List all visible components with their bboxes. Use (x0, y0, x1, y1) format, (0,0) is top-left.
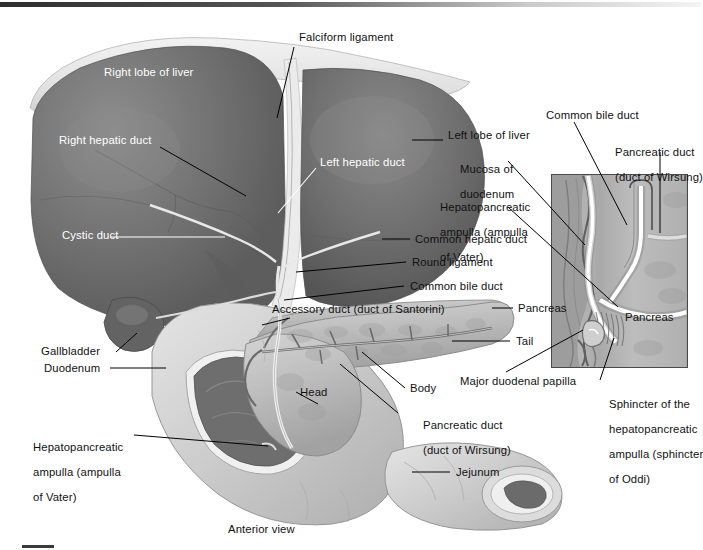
label-cystic-duct: Cystic duct (62, 229, 119, 242)
label-pancreatic-duct-left-line1: Pancreatic duct (423, 419, 503, 431)
label-left-hepatic-duct: Left hepatic duct (320, 156, 405, 169)
label-hepatopancreatic-ampulla-right-line1: Hepatopancreatic (440, 201, 530, 213)
label-pancreatic-duct-left-line2: (duct of Wirsung) (423, 444, 511, 456)
top-rule (0, 2, 701, 7)
label-pancreatic-duct-left: Pancreatic duct (duct of Wirsung) (410, 406, 511, 469)
label-pancreas-left: Pancreas (518, 302, 567, 315)
right-lobe-of-liver-shape (31, 46, 286, 326)
label-common-bile-duct-left: Common bile duct (410, 280, 503, 293)
label-sphincter-line1: Sphincter of the (609, 398, 690, 410)
label-left-lobe-of-liver: Left lobe of liver (448, 129, 530, 142)
label-gallbladder: Gallbladder (41, 345, 100, 358)
bottom-tick-mark (22, 545, 54, 548)
label-head: Head (300, 386, 327, 399)
label-jejunum: Jejunum (456, 466, 500, 479)
label-sphincter-line2: hepatopancreatic (609, 423, 697, 435)
label-duodenum: Duodenum (44, 362, 100, 375)
label-mucosa-of-duodenum-line1: Mucosa of (460, 163, 513, 175)
label-common-bile-duct-inset: Common bile duct (546, 109, 639, 122)
label-sphincter-line3: ampulla (sphincter (609, 448, 703, 460)
label-hepatopancreatic-ampulla-bl-line3: of Vater) (33, 491, 77, 503)
label-accessory-duct: Accessory duct (duct of Santorini) (272, 303, 445, 316)
label-tail: Tail (516, 335, 533, 348)
label-right-lobe-of-liver: Right lobe of liver (104, 66, 193, 79)
label-pancreas-inset: Pancreas (625, 311, 674, 324)
common-hepatic-duct-shape (277, 266, 279, 296)
label-pancreatic-duct-inset-line1: Pancreatic duct (615, 146, 695, 158)
label-sphincter-line4: of Oddi) (609, 473, 650, 485)
label-body: Body (410, 382, 436, 395)
label-common-hepatic-duct: Common hepatic duct (415, 233, 527, 246)
inset-major-duodenal-papilla (582, 321, 604, 347)
inset-panel-artwork (552, 175, 689, 367)
label-major-duodenal-papilla: Major duodenal papilla (460, 375, 576, 388)
label-right-hepatic-duct: Right hepatic duct (59, 134, 151, 147)
label-hepatopancreatic-ampulla-bottom-left: Hepatopancreatic ampulla (ampulla of Vat… (20, 428, 123, 516)
label-hepatopancreatic-ampulla-bl-line2: ampulla (ampulla (33, 466, 121, 478)
label-sphincter-of-oddi: Sphincter of the hepatopancreatic ampull… (596, 385, 703, 498)
label-anterior-view: Anterior view (228, 523, 295, 536)
label-hepatopancreatic-ampulla-bl-line1: Hepatopancreatic (33, 441, 123, 453)
label-pancreatic-duct-inset: Pancreatic duct (duct of Wirsung) (602, 133, 703, 196)
label-falciform-ligament: Falciform ligament (299, 31, 393, 44)
label-round-ligament: Round ligament (412, 256, 493, 269)
label-pancreatic-duct-inset-line2: (duct of Wirsung) (615, 171, 703, 183)
